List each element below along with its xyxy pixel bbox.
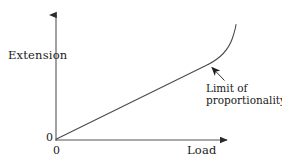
- annotation-line-2: proportionality: [206, 94, 280, 106]
- x-axis-label: Load: [187, 145, 217, 157]
- y-axis-label: Extension: [8, 50, 67, 62]
- curve-linear-segment: [56, 65, 208, 140]
- extension-load-diagram: Extension Load 0 0 Limit of proportional…: [0, 0, 282, 166]
- curve-nonlinear-segment: [208, 25, 236, 65]
- y-axis-origin-label: 0: [46, 132, 53, 143]
- annotation-line-1: Limit of: [206, 82, 280, 94]
- annotation-leader-line: [212, 68, 225, 81]
- limit-of-proportionality-annotation: Limit of proportionality: [206, 82, 280, 107]
- x-axis-origin-label: 0: [53, 145, 60, 156]
